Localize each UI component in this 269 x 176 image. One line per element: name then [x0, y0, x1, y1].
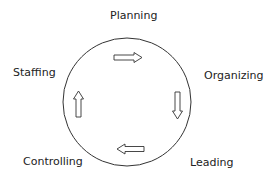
label-leading: Leading: [190, 156, 233, 169]
arrow-down-icon: [173, 92, 183, 119]
arrow-up-icon: [74, 91, 84, 117]
label-staffing: Staffing: [13, 66, 56, 79]
arrow-left-icon: [117, 144, 144, 154]
label-organizing: Organizing: [204, 69, 264, 82]
cycle-graphic: [0, 0, 269, 176]
label-controlling: Controlling: [23, 155, 83, 168]
arrow-right-icon: [114, 53, 142, 63]
label-planning: Planning: [110, 9, 157, 22]
management-cycle-diagram: Planning Organizing Leading Controlling …: [0, 0, 269, 176]
